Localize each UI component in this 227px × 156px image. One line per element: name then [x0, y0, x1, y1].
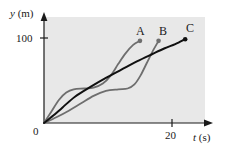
y-axis: [41, 12, 48, 123]
graph-figure: y (m) t (s) 100 20 0 A B C: [0, 0, 227, 156]
x-tick-label-20: 20: [165, 130, 176, 141]
curve-label-b: B: [159, 25, 167, 37]
curve-label-c: C: [186, 22, 194, 34]
y-tick-label-100: 100: [16, 33, 33, 44]
curve-b: [44, 41, 159, 123]
endpoint-marker-a: [138, 39, 143, 44]
y-axis-label: y (m): [10, 8, 34, 19]
curve-c: [44, 39, 185, 123]
curve-label-a: A: [136, 25, 145, 37]
x-axis: [44, 120, 213, 127]
data-curves: [44, 37, 187, 123]
endpoint-marker-c: [183, 37, 188, 42]
x-axis-label: t (s): [193, 132, 210, 143]
endpoint-marker-b: [156, 39, 161, 44]
origin-label: 0: [33, 126, 39, 137]
